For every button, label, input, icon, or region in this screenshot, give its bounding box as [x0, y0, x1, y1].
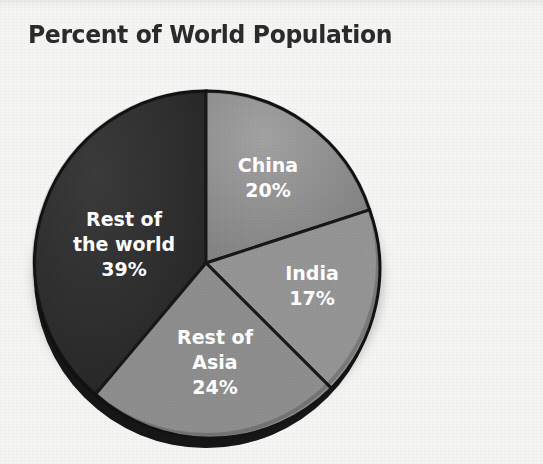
slice-label-china-value: 20%	[245, 179, 290, 201]
page-title: Percent of World Population	[28, 20, 392, 49]
slice-label-india-name: India	[285, 262, 339, 284]
slice-label-rest-of-world-line2: the world	[73, 233, 175, 255]
slice-label-rest-of-asia-line2: Asia	[192, 351, 237, 373]
pie-chart: China 20% India 17% Rest of Asia 24% Res…	[0, 0, 543, 464]
slice-label-india-value: 17%	[289, 287, 334, 309]
slice-label-china-name: China	[238, 154, 298, 176]
slice-label-rest-of-world-value: 39%	[101, 258, 146, 280]
slice-label-rest-of-asia-line1: Rest of	[177, 326, 254, 348]
slice-label-rest-of-asia-value: 24%	[192, 376, 237, 398]
chart-page: Percent of World Population	[0, 0, 543, 464]
slice-label-rest-of-world-line1: Rest of	[86, 208, 163, 230]
